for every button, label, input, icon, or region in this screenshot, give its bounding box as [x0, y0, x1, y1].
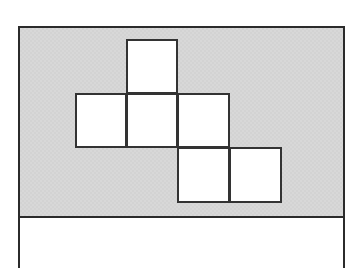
square-r3c4	[229, 147, 282, 203]
square-r2c2	[126, 93, 178, 148]
square-r3c3	[177, 147, 230, 203]
square-r2c1	[75, 93, 127, 148]
page-frame	[18, 216, 345, 268]
square-r1c2	[126, 39, 178, 94]
figure-root	[0, 0, 360, 268]
square-r2c3	[177, 93, 230, 148]
